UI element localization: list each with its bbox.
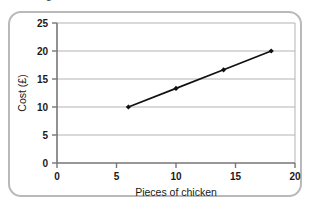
plot-background — [57, 23, 295, 163]
xtick-label-10: 10 — [170, 171, 182, 182]
xtick-label-0: 0 — [54, 171, 60, 182]
xtick-label-15: 15 — [230, 171, 242, 182]
ytick-label-25: 25 — [37, 18, 49, 29]
ytick-label-20: 20 — [37, 46, 49, 57]
xtick-label-5: 5 — [114, 171, 120, 182]
line-chart: 25 20 15 10 5 0 0 5 10 15 20 Cost (£) Pi… — [0, 0, 318, 210]
xtick-label-20: 20 — [289, 171, 301, 182]
ytick-label-5: 5 — [42, 130, 48, 141]
ytick-label-0: 0 — [42, 158, 48, 169]
y-axis-title: Cost (£) — [16, 74, 28, 111]
ytick-label-15: 15 — [37, 74, 49, 85]
ytick-label-10: 10 — [37, 102, 49, 113]
x-axis-title: Pieces of chicken — [135, 186, 217, 198]
